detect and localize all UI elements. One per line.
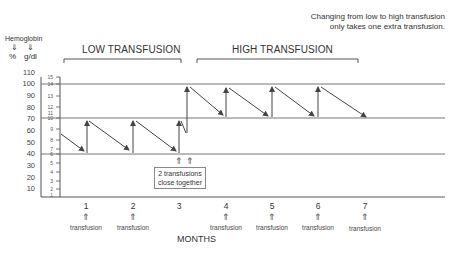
gdl-tick: 9 bbox=[43, 126, 53, 132]
transfusion-label: transfusion bbox=[204, 224, 248, 231]
transfusion-arrow-icon: ⇑ bbox=[127, 212, 139, 222]
transfusion-label: transfusion bbox=[296, 224, 340, 231]
month-label: 6 bbox=[308, 201, 328, 211]
transfusion-arrow-icon: ⇑ bbox=[220, 212, 232, 222]
gdl-unit-label: g/dl bbox=[24, 52, 37, 61]
gdl-tick: 5 bbox=[43, 160, 53, 166]
x-axis-title: MONTHS bbox=[177, 234, 216, 244]
callout-line-1: 2 transfusions bbox=[158, 169, 202, 178]
high-transfusion-label: HIGH TRANSFUSION bbox=[232, 44, 333, 55]
percent-unit-label: % bbox=[9, 52, 16, 61]
section-brackets bbox=[64, 59, 358, 63]
note-line-1: Changing from low to high transfusion bbox=[311, 12, 445, 22]
gdl-tick: 3 bbox=[43, 178, 53, 184]
double-transfusion-arrows-icon: ⇑ ⇑ bbox=[175, 156, 194, 166]
chart-note: Changing from low to high transfusion on… bbox=[311, 12, 445, 32]
gdl-down-arrow-icon: ⇓ bbox=[27, 43, 34, 52]
gdl-tick: 14 bbox=[43, 81, 53, 87]
reference-lines bbox=[41, 84, 445, 154]
gdl-tick: 13 bbox=[43, 93, 53, 99]
percent-tick: 30 bbox=[13, 161, 35, 170]
gdl-tick: 4 bbox=[43, 169, 53, 175]
note-line-2: only takes one extra transfusion. bbox=[311, 22, 445, 32]
low-transfusion-bracket bbox=[64, 59, 181, 63]
percent-tick: 40 bbox=[13, 149, 35, 158]
double-transfusion-callout: 2 transfusions close together bbox=[154, 167, 206, 189]
transfusion-arrow-icon: ⇑ bbox=[359, 212, 371, 222]
percent-down-arrow-icon: ⇓ bbox=[11, 43, 18, 52]
y-axis-title: Hemoglobin bbox=[5, 35, 42, 42]
axes bbox=[41, 77, 445, 197]
percent-tick: 60 bbox=[13, 126, 35, 135]
percent-tick: 110 bbox=[13, 68, 35, 77]
month-label: 1 bbox=[76, 201, 96, 211]
month-label: 5 bbox=[262, 201, 282, 211]
transfusion-arrow-icon: ⇑ bbox=[312, 212, 324, 222]
hemoglobin-chart bbox=[0, 0, 469, 257]
month-label: 3 bbox=[169, 201, 189, 211]
hemoglobin-line bbox=[61, 87, 366, 153]
percent-tick: 50 bbox=[13, 138, 35, 147]
percent-tick: 70 bbox=[13, 114, 35, 123]
percent-tick: 10 bbox=[13, 184, 35, 193]
month-label: 4 bbox=[216, 201, 236, 211]
gdl-tick: 1 bbox=[43, 192, 53, 198]
transfusion-label: transfusion bbox=[343, 225, 387, 232]
callout-line-2: close together bbox=[158, 178, 202, 187]
gdl-tick: 15 bbox=[43, 74, 53, 80]
high-transfusion-bracket bbox=[197, 59, 358, 63]
gdl-tick: 8 bbox=[43, 137, 53, 143]
percent-tick: 100 bbox=[13, 79, 35, 88]
percent-tick: 80 bbox=[13, 103, 35, 112]
low-transfusion-label: LOW TRANSFUSION bbox=[82, 44, 181, 55]
percent-tick: 90 bbox=[13, 91, 35, 100]
transfusion-label: transfusion bbox=[111, 224, 155, 231]
month-label: 7 bbox=[355, 201, 375, 211]
transfusion-arrow-icon: ⇑ bbox=[266, 212, 278, 222]
gdl-tick: 6 bbox=[43, 151, 53, 157]
transfusion-label: transfusion bbox=[250, 224, 294, 231]
gdl-tick: 10 bbox=[43, 115, 53, 121]
percent-tick: 20 bbox=[13, 173, 35, 182]
transfusion-arrow-icon: ⇑ bbox=[80, 212, 92, 222]
transfusion-label: transfusion bbox=[64, 224, 108, 231]
month-label: 2 bbox=[123, 201, 143, 211]
